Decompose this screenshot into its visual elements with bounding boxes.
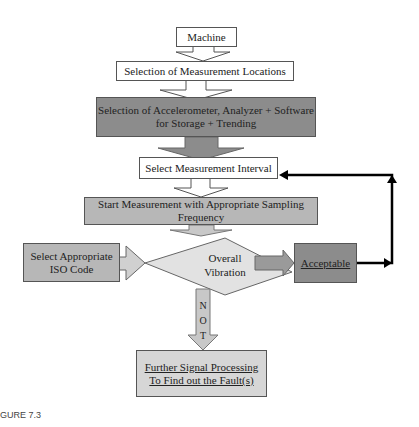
node-locations-label: Selection of Measurement Locations xyxy=(124,65,286,78)
arrow-machine-to-locations xyxy=(176,45,230,61)
node-iso-line2: ISO Code xyxy=(50,263,94,276)
node-further-processing: Further Signal Processing To Find out th… xyxy=(136,350,267,397)
decision-line2: Vibration xyxy=(175,265,275,279)
not-letter-n: N xyxy=(196,298,210,313)
node-equipment-selection: Selection of Accelerometer, Analyzer + S… xyxy=(96,97,316,137)
node-further-line1: Further Signal Processing xyxy=(145,361,259,374)
figure-caption: GURE 7.3 xyxy=(0,410,419,420)
node-measurement-locations: Selection of Measurement Locations xyxy=(116,61,294,81)
node-further-line2: To Find out the Fault(s) xyxy=(149,374,253,387)
arrow-iso-to-decision xyxy=(118,246,145,280)
node-machine-label: Machine xyxy=(187,31,225,44)
not-letter-t: T xyxy=(196,328,210,343)
node-start-measurement: Start Measurement with Appropriate Sampl… xyxy=(84,197,318,225)
arrow-start-to-decision xyxy=(170,225,232,236)
node-machine: Machine xyxy=(176,27,237,47)
not-letter-o: O xyxy=(196,313,210,328)
node-measurement-interval: Select Measurement Interval xyxy=(139,157,278,179)
decision-line1: Overall xyxy=(175,251,275,265)
node-interval-label: Select Measurement Interval xyxy=(145,162,271,175)
edge-label-not: N O T xyxy=(196,298,210,343)
feedback-arrowhead-left xyxy=(279,170,288,180)
node-decision-overall-vibration: Overall Vibration xyxy=(175,251,275,279)
node-equipment-line1: Selection of Accelerometer, Analyzer + S… xyxy=(98,104,314,117)
node-acceptable-label: Acceptable xyxy=(301,257,350,270)
node-equipment-line2: for Storage + Trending xyxy=(156,117,257,130)
node-iso-code: Select Appropriate ISO Code xyxy=(23,243,120,282)
node-acceptable: Acceptable xyxy=(294,243,357,283)
arrow-interval-to-start xyxy=(174,178,228,197)
node-start-label: Start Measurement with Appropriate Sampl… xyxy=(85,198,317,224)
node-iso-line1: Select Appropriate xyxy=(30,250,112,263)
